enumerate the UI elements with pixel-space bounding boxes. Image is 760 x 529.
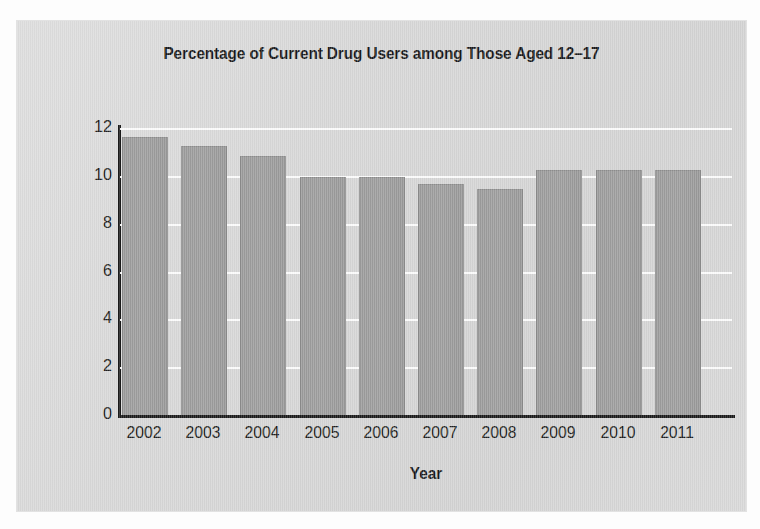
bar (477, 189, 523, 415)
y-axis-tick-label: 12 (74, 117, 112, 137)
bar (655, 170, 701, 415)
x-axis-tick-label: 2002 (116, 423, 173, 442)
bar (300, 177, 346, 415)
x-axis-tick-labels: 2002200320042005200620072008200920102011 (17, 423, 746, 453)
chart-panel: Percentage of Current Drug Users among T… (17, 21, 746, 511)
x-axis-tick-label: 2006 (352, 423, 409, 442)
gridline (120, 128, 732, 130)
y-axis-tick-label: 10 (74, 165, 112, 185)
y-axis-tick-label: 6 (74, 261, 112, 281)
x-axis-line (118, 415, 735, 418)
bar (596, 170, 642, 415)
y-axis-tick-label: 0 (74, 404, 112, 424)
x-axis-tick-label: 2005 (293, 423, 350, 442)
x-axis-tick-label: 2011 (648, 423, 705, 442)
x-axis-tick-label: 2003 (175, 423, 232, 442)
x-axis-tick-label: 2010 (589, 423, 646, 442)
x-axis-tick-label: 2004 (234, 423, 291, 442)
bar (536, 170, 582, 415)
x-axis-tick-label: 2009 (530, 423, 587, 442)
bar (181, 146, 227, 415)
x-axis-tick-label: 2007 (412, 423, 469, 442)
scanned-page: Percentage of Current Drug Users among T… (0, 0, 760, 529)
bar (122, 137, 168, 415)
chart-title: Percentage of Current Drug Users among T… (43, 44, 721, 63)
x-axis-title: Year (141, 464, 710, 483)
y-axis-tick-label: 4 (74, 308, 112, 328)
x-axis-tick-label: 2008 (471, 423, 528, 442)
bar (359, 177, 405, 415)
y-axis-tick-label: 2 (74, 356, 112, 376)
bar (418, 184, 464, 415)
y-axis-tick-label: 8 (74, 213, 112, 233)
bar (240, 156, 286, 415)
plot-area (120, 128, 732, 415)
